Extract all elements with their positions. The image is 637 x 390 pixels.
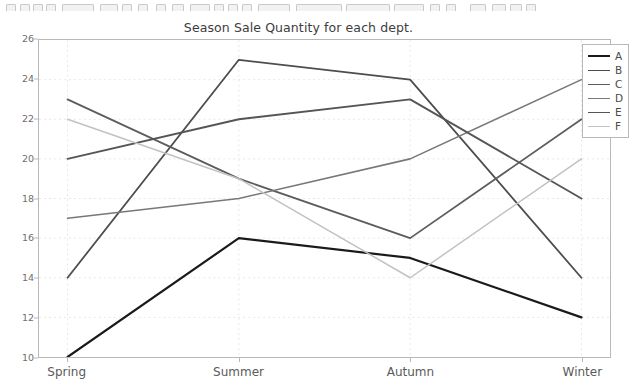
toolbar-button-3[interactable] — [46, 4, 56, 11]
legend-item-B[interactable]: B — [588, 63, 623, 77]
y-tick-label: 20 — [4, 154, 34, 164]
toolbar-button-14[interactable] — [258, 4, 290, 11]
chart-figure: Season Sale Quantity for each dept. 1012… — [0, 11, 637, 390]
toolbar-button-22[interactable] — [510, 4, 522, 11]
legend-item-F[interactable]: F — [588, 119, 623, 133]
toolbar-button-10[interactable] — [190, 4, 210, 11]
toolbar-button-6[interactable] — [122, 4, 132, 11]
x-tick-label-winter: Winter — [563, 365, 603, 379]
y-axis: 101214161820222426 — [0, 39, 34, 358]
chart-title: Season Sale Quantity for each dept. — [0, 20, 637, 35]
legend-line-swatch-B — [588, 70, 610, 71]
toolbar-button-18[interactable] — [430, 4, 440, 11]
toolbar-button-9[interactable] — [172, 4, 184, 11]
legend-label: B — [615, 65, 622, 76]
plot-area — [38, 39, 611, 358]
app-toolbar-strip — [0, 0, 637, 11]
x-tick-mark — [582, 358, 583, 362]
x-tick-mark — [410, 358, 411, 362]
x-axis: SpringSummerAutumnWinter — [38, 358, 611, 388]
series-line-E — [68, 99, 582, 198]
toolbar-button-15[interactable] — [296, 4, 342, 11]
legend-item-C[interactable]: C — [588, 77, 623, 91]
y-tick-label: 24 — [4, 74, 34, 84]
legend-item-D[interactable]: D — [588, 91, 623, 105]
toolbar-button-0[interactable] — [6, 4, 16, 11]
legend-line-swatch-D — [588, 98, 610, 99]
legend-label: D — [615, 93, 623, 104]
x-tick-label-autumn: Autumn — [387, 365, 434, 379]
series-line-D — [68, 80, 582, 219]
legend-line-swatch-F — [588, 126, 610, 127]
toolbar-button-5[interactable] — [100, 4, 118, 11]
toolbar-button-20[interactable] — [470, 4, 486, 11]
chart-legend: ABCDEF — [582, 44, 629, 138]
toolbar-button-13[interactable] — [242, 4, 252, 11]
toolbar-button-16[interactable] — [346, 4, 390, 11]
legend-line-swatch-C — [588, 84, 610, 85]
x-tick-mark — [67, 358, 68, 362]
toolbar-button-17[interactable] — [394, 4, 424, 11]
toolbar-button-2[interactable] — [33, 4, 43, 11]
x-tick-label-summer: Summer — [213, 365, 264, 379]
x-tick-label-spring: Spring — [47, 365, 86, 379]
series-line-A — [68, 238, 582, 357]
y-tick-label: 26 — [4, 34, 34, 44]
chart-screenshot: Season Sale Quantity for each dept. 1012… — [0, 0, 637, 390]
series-lines — [39, 40, 610, 357]
legend-line-swatch-A — [588, 55, 610, 57]
toolbar-button-21[interactable] — [492, 4, 506, 11]
series-line-C — [68, 99, 582, 238]
toolbar-button-19[interactable] — [446, 4, 456, 11]
legend-line-swatch-E — [588, 112, 610, 113]
y-tick-label: 14 — [4, 274, 34, 284]
toolbar-button-8[interactable] — [156, 4, 166, 11]
legend-label: E — [615, 107, 622, 118]
y-tick-label: 12 — [4, 313, 34, 323]
legend-item-E[interactable]: E — [588, 105, 623, 119]
toolbar-button-1[interactable] — [20, 4, 30, 11]
legend-item-A[interactable]: A — [588, 49, 623, 63]
x-tick-mark — [239, 358, 240, 362]
toolbar-button-4[interactable] — [62, 4, 94, 11]
toolbar-button-7[interactable] — [138, 4, 148, 11]
series-line-F — [68, 119, 582, 278]
toolbar-button-12[interactable] — [228, 4, 238, 11]
legend-label: F — [615, 121, 621, 132]
y-tick-label: 22 — [4, 114, 34, 124]
legend-label: A — [615, 51, 622, 62]
legend-label: C — [615, 79, 622, 90]
toolbar-button-11[interactable] — [214, 4, 224, 11]
y-tick-label: 16 — [4, 234, 34, 244]
series-line-B — [68, 60, 582, 278]
y-tick-label: 10 — [4, 353, 34, 363]
y-tick-label: 18 — [4, 194, 34, 204]
toolbar-button-23[interactable] — [526, 4, 536, 11]
